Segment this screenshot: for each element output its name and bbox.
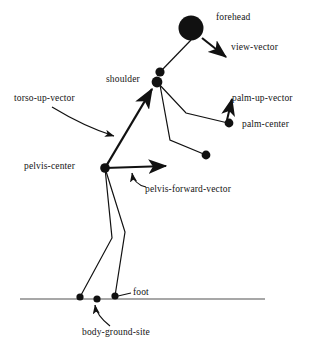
segment-upper-arm-right (157, 82, 228, 123)
label-palm-up-vector: palm-up-vector (232, 93, 293, 104)
pelvis-forward-vector-leader (132, 173, 146, 187)
pelvis-forward-vector-arrow (105, 166, 166, 168)
joint-foot-middle (93, 295, 100, 302)
view-vector-arrow (202, 38, 226, 57)
label-pelvis-forward-vector: pelvis-forward-vector (145, 184, 231, 195)
joint-shoulder (152, 77, 163, 88)
label-foot: foot (133, 287, 149, 298)
torso-up-vector-leader (52, 107, 114, 136)
segment-head-to-neck (160, 40, 191, 72)
torso-up-vector-arrow (105, 89, 152, 168)
label-shoulder: shoulder (106, 74, 140, 85)
joint-palm-center (225, 119, 234, 128)
label-forehead: forehead (216, 12, 250, 23)
label-view-vector: view-vector (231, 42, 278, 53)
segment-leg-front (105, 168, 125, 296)
label-palm-center: palm-center (242, 119, 289, 130)
body-annotation-figure: forehead view-vector shoulder torso-up-v… (0, 0, 318, 354)
label-pelvis-center: pelvis-center (24, 161, 75, 172)
joint-neck (155, 67, 164, 76)
joint-foot-front (111, 292, 118, 299)
segment-upper-arm-left (160, 85, 206, 155)
joint-foot-rear (76, 293, 83, 300)
joint-forehead (179, 16, 204, 41)
figure-canvas (0, 0, 318, 354)
joint-hand-lower (202, 151, 211, 160)
label-torso-up-vector: torso-up-vector (14, 93, 75, 104)
joint-pelvis-center (100, 163, 110, 173)
label-body-ground-site: body-ground-site (82, 327, 150, 338)
foot-leader-line (118, 293, 131, 296)
body-ground-site-leader (95, 305, 110, 326)
segment-leg-rear (80, 168, 112, 297)
